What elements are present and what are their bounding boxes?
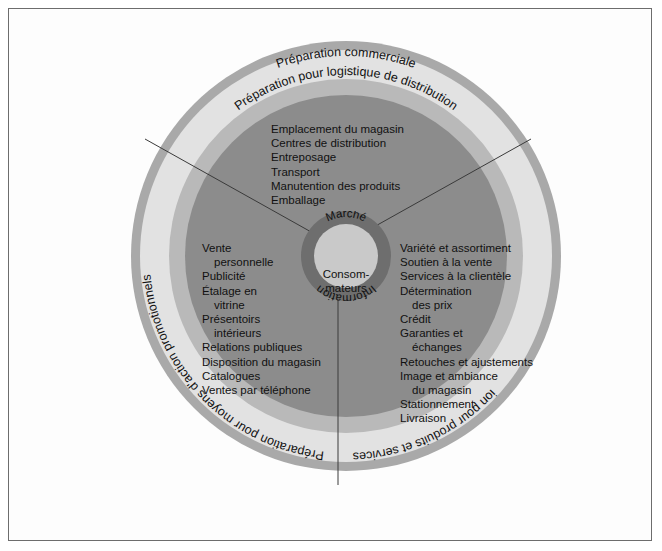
list-item: Soutien à la vente <box>400 255 533 269</box>
list-item: Retouches et ajustements <box>400 355 533 369</box>
list-item: Transport <box>271 165 404 179</box>
list-item: Crédit <box>400 312 533 326</box>
list-item: des prix <box>400 298 533 312</box>
list-item: Relations publiques <box>202 340 321 354</box>
list-item: Étalage en <box>202 284 321 298</box>
list-item: Vente <box>202 241 321 255</box>
list-item: Services à la clientèle <box>400 269 533 283</box>
list-item: Image et ambiance <box>400 369 533 383</box>
core-center-line2: mateurs <box>314 281 378 295</box>
sector-list-logistics: Emplacement du magasinCentres de distrib… <box>271 122 404 207</box>
list-item: Présentoirs <box>202 312 321 326</box>
list-item: Stationnement <box>400 397 533 411</box>
core-center-label: Consom- mateurs <box>314 267 378 295</box>
list-item: Emballage <box>271 193 404 207</box>
list-item: Disposition du magasin <box>202 355 321 369</box>
list-item: Catalogues <box>202 369 321 383</box>
figure-frame: Marché Information Consom- mateurs Prépa… <box>8 8 652 541</box>
list-item: du magasin <box>400 383 533 397</box>
list-item: échanges <box>400 340 533 354</box>
list-item: Emplacement du magasin <box>271 122 404 136</box>
diagram-page: Marché Information Consom- mateurs Prépa… <box>0 0 662 551</box>
list-item: Centres de distribution <box>271 136 404 150</box>
list-item: Détermination <box>400 284 533 298</box>
list-item: Garanties et <box>400 326 533 340</box>
core-center-line1: Consom- <box>314 267 378 281</box>
list-item: Variété et assortiment <box>400 241 533 255</box>
list-item: Manutention des produits <box>271 179 404 193</box>
sector-list-promotion: VentepersonnellePublicitéÉtalage envitri… <box>202 241 321 397</box>
list-item: Publicité <box>202 269 321 283</box>
list-item: Ventes par téléphone <box>202 383 321 397</box>
list-item: intérieurs <box>202 326 321 340</box>
list-item: Livraison <box>400 411 533 425</box>
sector-list-products: Variété et assortimentSoutien à la vente… <box>400 241 533 426</box>
list-item: personnelle <box>202 255 321 269</box>
list-item: Entreposage <box>271 150 404 164</box>
list-item: vitrine <box>202 298 321 312</box>
